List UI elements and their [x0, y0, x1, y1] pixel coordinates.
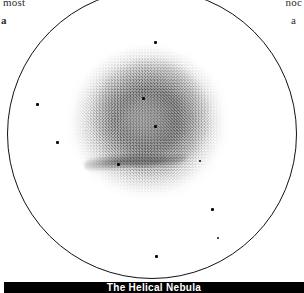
star-bottom — [155, 255, 158, 258]
bleed-text-top-right: noc — [286, 0, 302, 8]
star-left-lower — [56, 141, 59, 144]
caption-title: The Helical Nebula — [4, 282, 304, 293]
caption-bar: The Helical Nebula — [4, 282, 304, 293]
star-nebula-faint — [199, 160, 201, 162]
star-right-edge — [217, 237, 219, 239]
star-left-upper — [36, 103, 39, 106]
bleed-text-top-left: most — [3, 0, 25, 8]
helical-nebula-image — [78, 53, 218, 198]
star-right-lower — [211, 208, 214, 211]
star-nebula-upper — [142, 97, 145, 100]
star-top-center — [154, 41, 157, 44]
star-filament — [117, 163, 120, 166]
figure-label-left: a — [1, 15, 7, 26]
figure-page: most noc a a The Helical Nebula — [0, 0, 304, 293]
star-nebula-core — [154, 125, 157, 128]
figure-label-right: a — [291, 15, 296, 26]
